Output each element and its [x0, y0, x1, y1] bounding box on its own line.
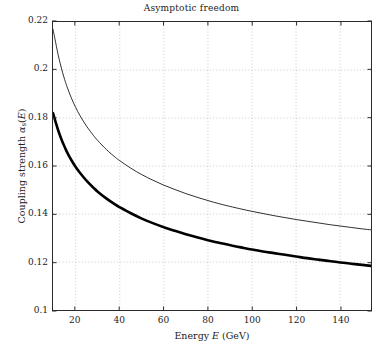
x-axis-title-suffix: (GeV) — [219, 330, 250, 341]
x-tick-label: 120 — [277, 315, 317, 325]
x-tick-label: 100 — [232, 315, 272, 325]
x-tick-label: 80 — [188, 315, 228, 325]
x-tick-label: 20 — [55, 315, 95, 325]
x-axis-title: Energy E (GeV) — [52, 330, 372, 341]
x-axis-title-prefix: Energy — [174, 330, 212, 341]
data-curves — [53, 22, 371, 310]
y-axis-alpha-symbol: α — [16, 127, 27, 133]
y-tick-label: 0.18 — [8, 112, 48, 122]
y-axis-paren-open: ( — [16, 119, 27, 123]
x-tick-label: 140 — [321, 315, 361, 325]
x-tick-label: 40 — [99, 315, 139, 325]
chart-figure: Asymptotic freedom 0.10.120.140.160.180.… — [0, 0, 383, 353]
x-tick-label: 60 — [144, 315, 184, 325]
y-tick-label: 0.14 — [8, 208, 48, 218]
y-tick-label: 0.22 — [8, 15, 48, 25]
y-axis-title-variable: E — [16, 112, 27, 119]
x-axis-title-variable: E — [212, 330, 219, 341]
y-axis-title: Coupling strength αs(E) — [16, 76, 28, 256]
y-axis-alpha-subscript: s — [20, 123, 28, 127]
y-tick-label: 0.2 — [8, 63, 48, 73]
y-axis-paren-close: ) — [16, 109, 27, 113]
y-axis-title-prefix: Coupling strength — [16, 133, 27, 224]
chart-title: Asymptotic freedom — [0, 3, 383, 13]
y-tick-label: 0.16 — [8, 160, 48, 170]
y-tick-label: 0.12 — [8, 257, 48, 267]
plot-area — [52, 21, 372, 311]
y-tick-label: 0.1 — [8, 305, 48, 315]
